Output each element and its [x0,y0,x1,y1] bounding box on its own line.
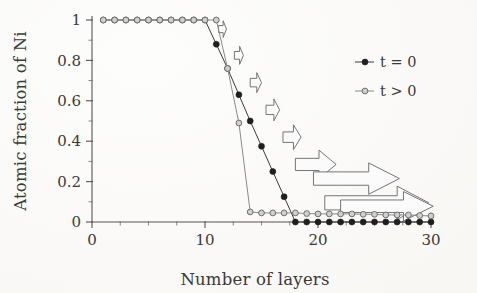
data-point-t-greater-0 [213,17,219,23]
data-point-t-equals-0 [270,169,276,175]
data-point-t-equals-0 [372,219,378,225]
x-axis-tick-label: 30 [421,231,440,249]
data-point-t-greater-0 [270,210,276,216]
x-axis-tick-label: 10 [195,231,214,249]
data-point-t-greater-0 [146,17,152,23]
interdiffusion-arrow [266,99,280,121]
y-axis-tick-label: 0.8 [57,52,81,70]
data-point-t-greater-0 [134,17,140,23]
data-point-t-greater-0 [180,17,186,23]
data-point-t-greater-0 [394,212,400,218]
figure-container: 00.20.40.60.810102030 t = 0t > 0 Atomic … [0,0,477,293]
data-point-t-greater-0 [225,66,231,72]
data-point-t-equals-0 [281,194,287,200]
data-point-t-greater-0 [293,210,299,216]
interdiffusion-arrow [234,46,243,64]
x-axis-tick-label: 20 [308,231,327,249]
y-axis-tick-label: 0.6 [57,92,81,110]
data-point-t-greater-0 [338,211,344,217]
y-axis-tick-label: 0.4 [57,132,81,150]
data-point-t-greater-0 [428,213,434,219]
data-point-t-greater-0 [236,120,242,126]
interdiffusion-arrow [283,125,301,150]
data-point-t-greater-0 [123,17,129,23]
x-axis-tick-label: 0 [87,231,97,249]
data-point-t-greater-0 [112,17,118,23]
data-point-t-equals-0 [349,219,355,225]
data-point-t-greater-0 [202,17,208,23]
data-point-t-greater-0 [191,17,197,23]
legend-group[interactable]: t = 0t > 0 [355,54,416,99]
data-point-t-equals-0 [428,219,434,225]
data-point-t-greater-0 [247,209,253,215]
data-point-t-greater-0 [326,211,332,217]
data-point-t-greater-0 [304,211,310,217]
data-point-t-equals-0 [292,219,298,225]
y-axis-title: Atomic fraction of Ni [11,31,30,212]
data-point-t-greater-0 [281,210,287,216]
legend-marker-filled-circle-icon [362,59,368,65]
data-point-t-greater-0 [100,17,106,23]
legend-marker-open-circle-icon [362,88,368,94]
legend-label: t > 0 [380,83,416,99]
data-point-t-equals-0 [315,219,321,225]
data-point-t-equals-0 [326,219,332,225]
data-point-t-greater-0 [383,212,389,218]
data-point-t-greater-0 [406,212,412,218]
data-point-t-equals-0 [417,219,423,225]
data-point-t-greater-0 [168,17,174,23]
data-point-t-equals-0 [247,118,253,124]
data-point-t-greater-0 [259,210,265,216]
data-point-t-equals-0 [213,41,219,47]
y-axis-tick-label: 1 [71,11,81,29]
data-point-t-greater-0 [360,211,366,217]
data-point-t-equals-0 [304,219,310,225]
data-point-t-equals-0 [383,219,389,225]
y-axis-tick-label: 0 [71,213,81,231]
series-line-t-equals-0 [103,20,431,222]
chart-svg: 00.20.40.60.810102030 t = 0t > 0 Atomic … [0,0,477,293]
data-point-t-greater-0 [417,213,423,219]
data-point-t-greater-0 [157,17,163,23]
data-point-t-equals-0 [360,219,366,225]
data-point-t-equals-0 [405,219,411,225]
y-axis-tick-label: 0.2 [57,173,81,191]
legend-label: t = 0 [380,54,416,70]
data-point-t-equals-0 [394,219,400,225]
data-point-t-greater-0 [349,211,355,217]
data-point-t-equals-0 [338,219,344,225]
data-point-t-greater-0 [315,211,321,217]
data-point-t-greater-0 [372,211,378,217]
interdiffusion-arrow [250,73,261,93]
x-axis-title: Number of layers [180,270,329,289]
data-point-t-equals-0 [236,92,242,98]
data-point-t-equals-0 [259,143,265,149]
data-series-group [100,17,434,225]
